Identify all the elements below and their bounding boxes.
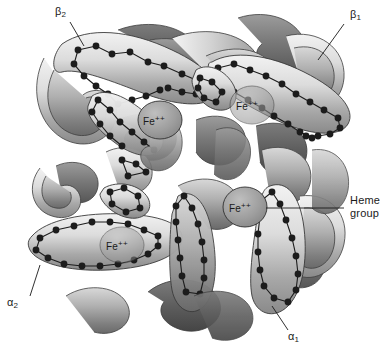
hemoglobin-figure: β2 β1 α2 α1 Heme group Fe++ Fe++ Fe++ Fe… xyxy=(0,0,392,357)
label-fe-beta1-charge: ++ xyxy=(248,99,258,108)
label-beta2: β2 xyxy=(55,5,66,21)
label-fe-alpha1: Fe++ xyxy=(229,200,251,215)
hemoglobin-structure-svg xyxy=(0,0,392,357)
label-alpha2-subscript: 2 xyxy=(14,301,19,310)
label-fe-beta2: Fe++ xyxy=(143,113,165,128)
label-beta1: β1 xyxy=(350,8,361,24)
label-fe-beta1: Fe++ xyxy=(236,98,258,113)
label-fe-beta1-text: Fe xyxy=(236,101,248,112)
label-fe-alpha2: Fe++ xyxy=(106,238,128,253)
label-heme-group-line2: group xyxy=(350,207,392,220)
label-fe-alpha2-text: Fe xyxy=(106,241,118,252)
label-fe-beta2-charge: ++ xyxy=(155,114,165,123)
label-alpha2: α2 xyxy=(7,296,18,312)
label-fe-alpha2-charge: ++ xyxy=(118,239,128,248)
label-beta1-subscript: 1 xyxy=(357,13,362,22)
label-fe-alpha1-charge: ++ xyxy=(241,201,251,210)
label-beta2-subscript: 2 xyxy=(62,10,67,19)
label-fe-alpha1-text: Fe xyxy=(229,203,241,214)
label-heme-group-line1: Heme xyxy=(350,194,392,207)
label-fe-beta2-text: Fe xyxy=(143,116,155,127)
label-heme-group: Heme group xyxy=(350,194,392,220)
label-alpha1: α1 xyxy=(288,330,299,346)
label-alpha1-subscript: 1 xyxy=(295,335,300,344)
